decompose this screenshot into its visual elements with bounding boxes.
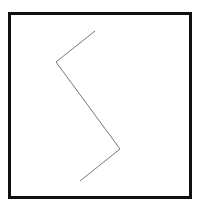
- frame-border: [10, 14, 191, 198]
- zigzag-line: [56, 31, 120, 181]
- diagram-canvas: [0, 0, 200, 208]
